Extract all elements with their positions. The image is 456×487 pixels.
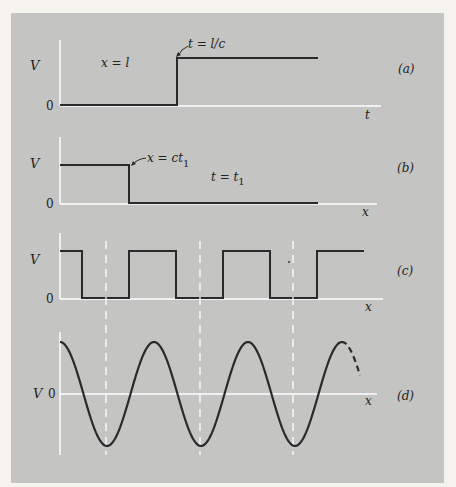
annotation-position: x = l (101, 56, 129, 70)
zero-label: 0 (46, 197, 54, 211)
panel-tag: (b) (397, 161, 414, 175)
panel-tag: (d) (397, 389, 414, 403)
panel-a: V 0 x = l t = l/c t (a) (30, 37, 415, 122)
x-axis-label: x (365, 300, 372, 314)
zero-label: 0 (46, 99, 54, 113)
x-axis-label: t (365, 108, 370, 122)
sine-continuation-dashed (341, 342, 360, 375)
x-axis-label: x (365, 394, 372, 408)
zero-label: 0 (46, 292, 54, 306)
y-label: V (30, 58, 41, 73)
dashed-guides (106, 241, 293, 455)
x-axis-label: x (362, 205, 369, 219)
panel-b: V 0 x = ct1 t = t1 x (b) (30, 137, 414, 219)
annotation-time: t = t1 (211, 170, 245, 187)
step-trace (60, 165, 318, 203)
waveform-figure: V 0 x = l t = l/c t (a) V 0 x = ct1 t = … (0, 0, 456, 487)
zero-label: 0 (48, 387, 56, 401)
annotation-step-time: t = l/c (188, 37, 225, 51)
panel-c: V 0 x (c) (30, 233, 413, 314)
y-label: V (30, 252, 41, 267)
y-label: V (30, 156, 41, 171)
speck (288, 261, 290, 263)
panel-d: V 0 x (d) (33, 332, 414, 455)
panel-tag: (c) (397, 264, 413, 278)
step-trace (60, 58, 318, 105)
y-label: V (33, 386, 44, 401)
panel-tag: (a) (398, 62, 415, 76)
annotation-step-position: x = ct1 (147, 151, 189, 169)
